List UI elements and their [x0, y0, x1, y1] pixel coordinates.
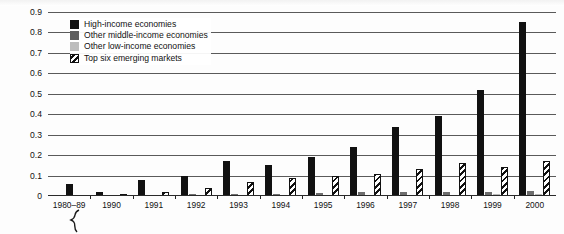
axis-break-icon [66, 208, 84, 234]
legend-label: Other middle-income economies [84, 30, 208, 41]
x-axis-line [48, 195, 556, 196]
bar-group [471, 12, 513, 196]
bar-s-high [223, 161, 230, 196]
legend-label: Other low-income economies [84, 41, 195, 52]
legend-label: Top six emerging markets [84, 53, 182, 64]
legend-label: High-income economies [84, 19, 176, 30]
x-axis-label: 1997 [387, 200, 429, 210]
x-axis-label: 1994 [260, 200, 302, 210]
bar-group [217, 12, 259, 196]
x-axis-label: 1980–89 [48, 200, 90, 210]
bar-s-high [519, 22, 526, 196]
legend-swatch-s-top [70, 54, 79, 63]
bar-s-high [138, 180, 145, 196]
bar-group [514, 12, 556, 196]
x-axis-label: 1996 [344, 200, 386, 210]
legend-item: High-income economies [70, 19, 208, 30]
x-axis-label: 1993 [217, 200, 259, 210]
x-axis-label: 1992 [175, 200, 217, 210]
bar-s-high [350, 147, 357, 196]
bar-group [344, 12, 386, 196]
x-axis-label: 1995 [302, 200, 344, 210]
x-axis-label: 1999 [471, 200, 513, 210]
legend-item: Top six emerging markets [70, 53, 208, 64]
x-axis-label: 1998 [429, 200, 471, 210]
legend-swatch-s-high [70, 20, 79, 29]
y-axis-tick-label: 0.3 [30, 130, 42, 140]
y-axis-tick-label: 0.9 [30, 7, 42, 17]
x-axis-label: 1991 [133, 200, 175, 210]
bar-s-high [265, 165, 272, 196]
y-axis-tick-label: 0 [37, 191, 42, 201]
bar-group [387, 12, 429, 196]
x-axis-label: 2000 [514, 200, 556, 210]
bar-s-top [289, 178, 296, 196]
y-axis-tick-label: 0.2 [30, 150, 42, 160]
bar-s-top [416, 169, 423, 196]
y-axis-tick-label: 0.4 [30, 109, 42, 119]
bar-s-top [332, 176, 339, 196]
bar-s-high [477, 90, 484, 196]
bar-group [260, 12, 302, 196]
bar-s-high [435, 116, 442, 196]
x-axis-label: 1990 [90, 200, 132, 210]
y-axis-tick-label: 0.6 [30, 68, 42, 78]
chart-legend: High-income economiesOther middle-income… [70, 18, 211, 65]
bar-s-top [247, 182, 254, 196]
scan-artifact-top [0, 0, 564, 6]
y-axis-tick-label: 0.1 [30, 171, 42, 181]
y-axis-tick-label: 0.8 [30, 27, 42, 37]
bar-s-top [459, 163, 466, 196]
bar-s-top [501, 167, 508, 196]
legend-item: Other low-income economies [70, 41, 208, 52]
bar-s-high [392, 127, 399, 197]
y-axis-tick-label: 0.5 [30, 89, 42, 99]
legend-item: Other middle-income economies [70, 30, 208, 41]
bar-s-top [543, 161, 550, 196]
bar-group [429, 12, 471, 196]
x-axis-labels: 1980–89199019911992199319941995199619971… [48, 200, 556, 210]
bar-chart: 0.90.80.70.60.50.40.30.20.10 1980–891990… [0, 0, 564, 234]
legend-swatch-s-low [70, 42, 79, 51]
bar-s-high [181, 176, 188, 196]
bar-s-high [308, 157, 315, 196]
bar-s-top [374, 174, 381, 196]
legend-swatch-s-mid [70, 31, 79, 40]
y-axis-tick-label: 0.7 [30, 48, 42, 58]
bar-group [302, 12, 344, 196]
